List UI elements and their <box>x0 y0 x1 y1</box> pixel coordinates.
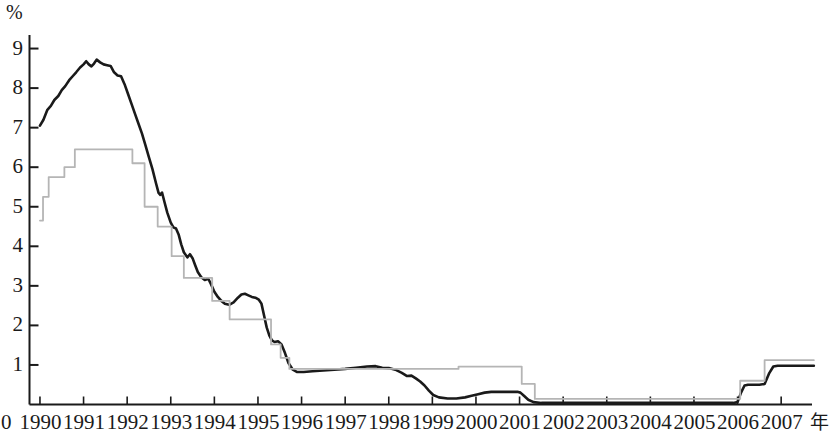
x-axis-tick-label: 1991 <box>63 412 106 433</box>
y-axis-unit-label: % <box>6 2 23 22</box>
y-axis-tick-label: 6 <box>1 156 23 177</box>
origin-tick-label: 0 <box>1 412 12 433</box>
axes <box>30 35 813 405</box>
x-axis-unit-label: 年 <box>810 413 829 433</box>
y-axis-tick-label: 8 <box>1 77 23 98</box>
y-axis-tick-label: 7 <box>1 117 23 138</box>
y-axis-tick-label: 9 <box>1 38 23 59</box>
x-axis-tick-label: 2000 <box>455 412 498 433</box>
x-axis-tick-label: 2001 <box>499 412 542 433</box>
x-axis-tick-label: 2004 <box>629 412 672 433</box>
y-axis-tick-label: 5 <box>1 196 23 217</box>
x-axis-tick-label: 2003 <box>586 412 629 433</box>
x-axis-tick-label: 1995 <box>237 412 280 433</box>
plot-area <box>0 0 840 439</box>
x-axis-tick-label: 1994 <box>193 412 236 433</box>
y-axis-tick-label: 4 <box>1 235 23 256</box>
x-axis-tick-label: 2007 <box>760 412 803 433</box>
x-axis-tick-label: 1990 <box>19 412 62 433</box>
x-axis-tick-label: 1992 <box>106 412 149 433</box>
x-axis-tick-label: 2006 <box>717 412 760 433</box>
market-rate-line <box>40 60 814 403</box>
x-axis-tick-label: 1998 <box>368 412 411 433</box>
interest-rate-chart: % 年 0 123456789 199019911992199319941995… <box>0 0 840 439</box>
y-axis-tick-label: 1 <box>1 354 23 375</box>
x-axis-tick-label: 1996 <box>281 412 324 433</box>
x-axis-tick-label: 2002 <box>542 412 585 433</box>
data-series-group <box>40 60 814 403</box>
x-axis-tick-label: 1993 <box>150 412 193 433</box>
y-axis-tick-label: 3 <box>1 275 23 296</box>
y-axis-tick-label: 2 <box>1 314 23 335</box>
x-axis-tick-label: 2005 <box>673 412 716 433</box>
y-axis-ticks <box>30 49 39 365</box>
x-axis-tick-label: 1997 <box>324 412 367 433</box>
x-axis-tick-label: 1999 <box>411 412 454 433</box>
